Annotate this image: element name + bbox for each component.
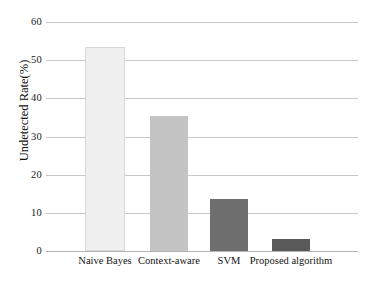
axis-baseline	[46, 251, 358, 252]
x-tick-label: Proposed algorithm	[241, 254, 341, 268]
plot-area	[46, 22, 358, 251]
y-tick-label: 40	[2, 93, 42, 103]
x-axis-tick-labels: Naive BayesContext-awareSVMProposed algo…	[46, 253, 358, 273]
y-tick-label: 10	[2, 208, 42, 218]
bar-svm	[210, 199, 248, 251]
y-tick-label: 60	[2, 17, 42, 27]
bar-context-aware	[150, 116, 188, 251]
y-tick-label: 50	[2, 55, 42, 65]
y-tick-label: 0	[2, 246, 42, 256]
y-tick-label: 20	[2, 170, 42, 180]
gridline	[46, 22, 358, 23]
y-tick-label: 30	[2, 132, 42, 142]
bar-naive-bayes	[85, 47, 125, 251]
bar-proposed-algorithm	[272, 239, 310, 251]
bar-chart-figure: Undetected Rate(%) 0102030405060 Naive B…	[0, 0, 366, 281]
y-axis-tick-labels: 0102030405060	[0, 22, 42, 251]
